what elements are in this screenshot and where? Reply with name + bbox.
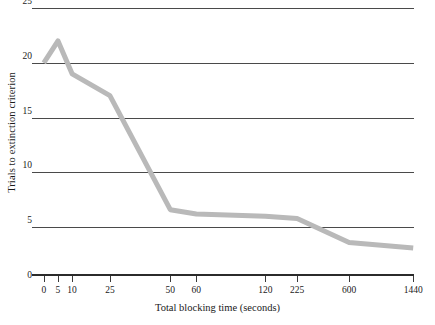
x-axis-tick [413,276,414,282]
x-axis-tick-label: 5 [56,285,61,296]
series-polyline [44,41,413,248]
y-axis-tick-labels: 2520151050 [8,0,32,325]
y-axis-tick-label: 25 [10,0,32,7]
x-axis-tick [72,276,73,282]
x-axis-tick-label: 25 [105,285,115,296]
x-axis-tick [297,276,298,282]
x-axis-tick-label: 0 [41,285,46,296]
x-axis-tick-label: 10 [67,285,77,296]
y-axis-tick-label: 15 [10,107,32,117]
x-axis-tick [196,276,197,282]
y-axis-tick-label: 0 [10,271,32,281]
x-axis-tick-label: 120 [258,285,272,296]
y-axis-tick-label: 10 [10,161,32,171]
x-axis-tick [44,276,45,282]
x-axis-tick-label: 50 [166,285,176,296]
y-axis-tick-label: 5 [10,216,32,226]
x-axis-tick [110,276,111,282]
plot-area [32,8,414,282]
x-axis-tick [170,276,171,282]
x-axis-tick [349,276,350,282]
x-axis-title: Total blocking time (seconds) [0,302,435,313]
x-axis-tick-label: 600 [342,285,356,296]
data-series-line [32,8,414,282]
y-axis-tick-label: 20 [10,52,32,62]
x-axis-tick-label: 225 [290,285,304,296]
x-axis-line [32,274,414,276]
line-chart: Trials to extinction criterion 252015105… [0,0,435,325]
x-axis-tick-label: 60 [192,285,202,296]
x-axis-tick [265,276,266,282]
x-axis-title-label: Total blocking time (seconds) [155,302,280,313]
x-axis-tick [58,276,59,282]
x-axis-tick-label: 1440 [404,285,423,296]
